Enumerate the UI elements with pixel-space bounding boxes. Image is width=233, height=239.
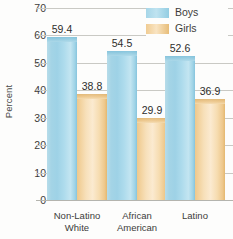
value-label-boys-1: 54.5 [102, 38, 142, 49]
bar-girls-2 [195, 99, 225, 200]
bar-cap [165, 56, 195, 61]
bar-cap [47, 37, 77, 42]
bar-cap [77, 94, 107, 99]
legend-swatch-boys [146, 8, 169, 18]
value-label-girls-0: 38.8 [72, 81, 112, 92]
y-axis-title: Percent [3, 72, 14, 132]
value-label-boys-2: 52.6 [160, 43, 200, 54]
legend-label: Boys [175, 7, 198, 18]
bar-cap [137, 118, 167, 123]
bar-boys-0 [47, 37, 77, 200]
bar-cap [195, 99, 225, 104]
bar-girls-0 [77, 94, 107, 200]
bar-boys-1 [107, 51, 137, 200]
value-label-boys-0: 59.4 [42, 24, 82, 35]
legend: BoysGirls [146, 4, 228, 40]
bar-chart: Percent 706050403020100 59.438.854.529.9… [0, 0, 233, 239]
bar-girls-1 [137, 118, 167, 200]
value-label-girls-2: 36.9 [190, 86, 230, 97]
legend-item-girls[interactable]: Girls [146, 22, 228, 35]
bar-cap [107, 51, 137, 56]
x-category-label-2: Latino [155, 210, 233, 222]
legend-label: Girls [175, 23, 197, 34]
legend-item-boys[interactable]: Boys [146, 6, 228, 19]
x-category-label-line: American [97, 222, 177, 234]
x-category-label-line: Latino [155, 210, 233, 222]
legend-swatch-girls [146, 24, 169, 34]
bar-boys-2 [165, 56, 195, 200]
